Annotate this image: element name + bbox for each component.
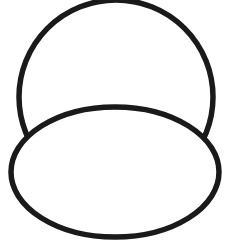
figure-canvas: [0, 0, 236, 247]
lower-ellipse-shape: [11, 107, 219, 237]
line-drawing-svg: [0, 0, 236, 247]
